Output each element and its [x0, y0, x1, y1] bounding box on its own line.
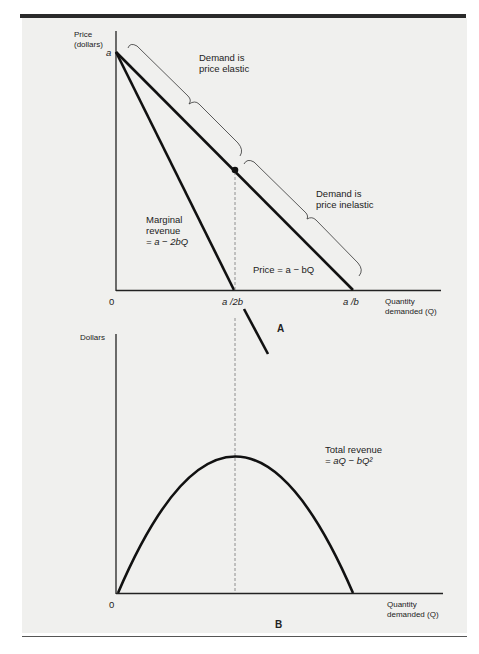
- panel-b-origin: 0: [109, 599, 114, 610]
- panel-b-ylabel: Dollars: [80, 333, 105, 343]
- mr-line2: revenue: [146, 225, 188, 236]
- tick-a-over-2b: a /2b: [222, 296, 243, 307]
- mr-label: Marginal revenue = a − 2bQ: [146, 214, 188, 247]
- price-curve-label: Price = a − bQ: [253, 264, 314, 275]
- inelastic-line2: price inelastic: [316, 199, 374, 210]
- tr-line1: Total revenue: [325, 444, 382, 455]
- inelastic-label: Demand is price inelastic: [316, 188, 374, 210]
- panel-a-ylabel: Price (dollars): [74, 30, 103, 49]
- elastic-line1: Demand is: [199, 52, 249, 63]
- panel-b-letter: B: [275, 619, 282, 630]
- unit-elastic-point: [232, 167, 239, 174]
- marginal-revenue-curve: [116, 52, 234, 290]
- ylabel-line2: (dollars): [74, 40, 103, 50]
- panel-a-xlabel: Quantity demanded (Q): [385, 297, 437, 316]
- xlabel-line1: Quantity: [385, 297, 437, 307]
- xlabel-line2: demanded (Q): [385, 307, 437, 317]
- total-revenue-label: Total revenue = aQ − bQ²: [325, 444, 382, 466]
- panel-b-xlabel: Quantity demanded (Q): [387, 600, 439, 619]
- xlabel-b-line2: demanded (Q): [387, 610, 439, 620]
- elastic-line2: price elastic: [199, 63, 249, 74]
- panel-connector: [244, 309, 268, 354]
- tr-line2: = aQ − bQ²: [325, 455, 382, 466]
- inelastic-line1: Demand is: [316, 188, 374, 199]
- tick-a-over-b: a /b: [343, 296, 359, 307]
- total-revenue-curve: [118, 457, 353, 594]
- chart-svg: [0, 0, 479, 654]
- elastic-label: Demand is price elastic: [199, 52, 249, 74]
- inelastic-brace: [244, 160, 361, 276]
- panel-a-origin: 0: [109, 296, 114, 307]
- ylabel-line1: Price: [74, 30, 103, 40]
- panel-a-letter: A: [277, 323, 284, 334]
- a-intercept-label: a: [106, 47, 111, 58]
- mr-line1: Marginal: [146, 214, 188, 225]
- xlabel-b-line1: Quantity: [387, 600, 439, 610]
- mr-line3: = a − 2bQ: [146, 236, 188, 247]
